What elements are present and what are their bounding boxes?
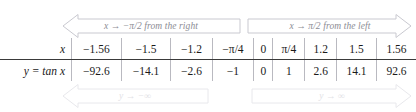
cell-x-8: 1.56 bbox=[377, 38, 416, 60]
cell-x-3: −π/4 bbox=[212, 38, 254, 60]
cell-x-1: −1.5 bbox=[121, 38, 171, 60]
cell-y-3: −1 bbox=[212, 60, 254, 82]
cell-y-5: 1 bbox=[273, 60, 305, 82]
tangent-values-table: x −1.56 −1.5 −1.2 −π/4 0 π/4 1.2 1.5 1.5… bbox=[0, 38, 416, 81]
cell-x-2: −1.2 bbox=[171, 38, 212, 60]
annotation-arrow-bottom-left: y → −∞ bbox=[62, 84, 208, 108]
cell-y-1: −14.1 bbox=[121, 60, 171, 82]
table-row-y: y = tan x −92.6 −14.1 −2.6 −1 0 1 2.6 14… bbox=[0, 60, 416, 82]
cell-x-5: π/4 bbox=[273, 38, 305, 60]
annotation-arrow-top-left: x → −π/2 from the right bbox=[62, 14, 240, 38]
cell-y-0: −92.6 bbox=[72, 60, 122, 82]
cell-x-6: 1.2 bbox=[305, 38, 337, 60]
annotation-top-right-label: x → π/2 from the left bbox=[248, 21, 412, 31]
cell-y-7: 14.1 bbox=[336, 60, 376, 82]
cell-y-2: −2.6 bbox=[171, 60, 212, 82]
annotation-bottom-right-label: y → ∞ bbox=[252, 91, 412, 101]
cell-x-0: −1.56 bbox=[72, 38, 122, 60]
cell-x-4: 0 bbox=[254, 38, 273, 60]
row-label-y: y = tan x bbox=[0, 60, 72, 82]
data-table-wrapper: x −1.56 −1.5 −1.2 −π/4 0 π/4 1.2 1.5 1.5… bbox=[0, 38, 416, 81]
annotation-arrow-bottom-right: y → ∞ bbox=[252, 84, 412, 108]
annotation-arrow-top-right: x → π/2 from the left bbox=[248, 14, 412, 38]
tangent-limit-figure: x → −π/2 from the right x → π/2 from the… bbox=[0, 0, 416, 112]
annotation-top-left-label: x → −π/2 from the right bbox=[62, 21, 240, 31]
cell-x-7: 1.5 bbox=[336, 38, 376, 60]
cell-y-6: 2.6 bbox=[305, 60, 337, 82]
cell-y-8: 92.6 bbox=[377, 60, 416, 82]
row-label-x: x bbox=[0, 38, 72, 60]
table-row-x: x −1.56 −1.5 −1.2 −π/4 0 π/4 1.2 1.5 1.5… bbox=[0, 38, 416, 60]
cell-y-4: 0 bbox=[254, 60, 273, 82]
annotation-bottom-left-label: y → −∞ bbox=[62, 91, 208, 101]
